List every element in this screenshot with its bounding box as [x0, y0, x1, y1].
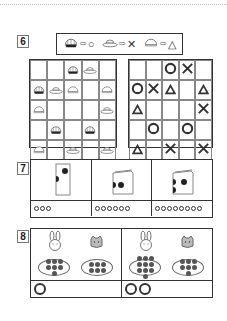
legend-symbol: △ — [168, 39, 176, 50]
apple-icon — [192, 259, 197, 264]
small-circle-icon — [95, 206, 100, 211]
triangle-mark-icon — [165, 81, 176, 99]
apple-icon — [192, 265, 197, 270]
dark-striped-dome-hat-icon — [63, 35, 79, 53]
apple-icon — [180, 259, 185, 264]
answer-grid-cell — [179, 120, 196, 140]
answer-grid-cell — [129, 100, 146, 120]
answer-grid-cell — [179, 60, 196, 80]
apple-icon — [58, 259, 63, 264]
plate-of-apples — [38, 259, 70, 276]
large-circle-icon — [125, 283, 137, 295]
answer-grid-cell — [162, 120, 179, 140]
q8-answer-cell — [31, 281, 122, 297]
small-circle-icon — [191, 206, 196, 211]
apple-icon — [149, 256, 154, 261]
cross-mark-icon — [147, 81, 160, 99]
question-8-number: 8 — [17, 230, 29, 243]
hat-grid-cell — [99, 80, 116, 100]
legend-item-2: ⇨△ — [143, 35, 176, 53]
arrow-icon: ⇨ — [119, 40, 126, 48]
answer-grid-cell — [129, 60, 146, 80]
hat-grid-cell — [47, 100, 64, 120]
answer-grid-cell — [195, 80, 212, 100]
q6-legend-box: ⇨○⇨✕⇨△ — [56, 33, 183, 55]
plate-of-apples — [172, 259, 204, 276]
wide-brim-hat-icon — [66, 141, 80, 159]
small-circle-icon — [161, 206, 166, 211]
circle-mark-icon — [164, 61, 177, 79]
apple-icon — [46, 265, 51, 270]
legend-symbol: ○ — [88, 39, 95, 50]
small-circle-icon — [125, 206, 130, 211]
answer-grid-cell — [146, 120, 163, 140]
apple-icon — [89, 268, 94, 273]
page-top-dotted-rule — [0, 4, 227, 5]
apple-icon — [101, 268, 106, 273]
large-circle-icon — [34, 283, 46, 295]
wide-brim-hat-icon — [102, 35, 118, 53]
small-circle-icon — [40, 206, 45, 211]
apple-icon — [186, 271, 191, 276]
triangle-mark-icon — [132, 141, 143, 159]
answer-grid-cell — [129, 80, 146, 100]
answer-grid-cell — [195, 140, 212, 160]
hat-grid-cell — [64, 60, 81, 80]
circle-mark-icon — [181, 121, 194, 139]
hat-grid-cell — [30, 60, 47, 80]
hat-grid-cell — [64, 80, 81, 100]
plate-of-apples — [129, 259, 161, 276]
legend-symbol: ✕ — [127, 39, 136, 50]
apple-icon — [137, 268, 142, 273]
dark-striped-dome-hat-icon — [32, 81, 46, 99]
hat-grid-cell — [82, 60, 99, 80]
apple-icon — [186, 265, 191, 270]
q7-answer-cell — [152, 201, 212, 216]
hat-grid-cell — [30, 100, 47, 120]
small-circle-icon — [173, 206, 178, 211]
small-circle-icon — [155, 206, 160, 211]
hat-grid-cell — [99, 140, 116, 160]
apple-icon — [95, 262, 100, 267]
q8-picture-panel — [31, 229, 122, 280]
apple-icon — [180, 265, 185, 270]
cross-mark-icon — [197, 101, 210, 119]
hat-grid-cell — [82, 140, 99, 160]
answer-grid-cell — [129, 120, 146, 140]
apple-icon — [149, 268, 154, 273]
cross-mark-icon — [181, 61, 194, 79]
hat-grid-cell — [47, 120, 64, 140]
hat-grid-cell — [30, 120, 47, 140]
dark-striped-dome-hat-icon — [83, 121, 97, 139]
small-circle-icon — [185, 206, 190, 211]
small-circle-icon — [119, 206, 124, 211]
q8-picture-panel — [122, 229, 212, 280]
hat-grid-cell — [30, 140, 47, 160]
plain-dome-hat-icon — [32, 101, 46, 119]
hat-grid-cell — [64, 140, 81, 160]
answer-grid-cell — [146, 60, 163, 80]
hat-grid-cell — [99, 120, 116, 140]
plain-dome-hat-icon — [100, 81, 114, 99]
hat-grid-cell — [64, 120, 81, 140]
q7-answer-cell — [92, 201, 153, 216]
small-circle-icon — [101, 206, 106, 211]
q7-box — [30, 159, 213, 218]
apple-icon — [143, 262, 148, 267]
apple-icon — [137, 256, 142, 261]
q7-picture-panel — [152, 160, 212, 200]
q7-answer-cell — [31, 201, 92, 216]
q6-answer-grid — [128, 59, 213, 148]
wide-brim-hat-icon — [49, 81, 63, 99]
apple-icon — [89, 262, 94, 267]
small-circle-icon — [107, 206, 112, 211]
apple-icon — [143, 274, 148, 279]
hat-grid-cell — [47, 80, 64, 100]
answer-grid-cell — [179, 100, 196, 120]
plain-dome-hat-icon — [32, 141, 46, 159]
question-6-number: 6 — [17, 35, 29, 48]
hat-grid-cell — [30, 80, 47, 100]
circle-mark-icon — [147, 121, 160, 139]
legend-item-0: ⇨○ — [63, 35, 95, 53]
apple-icon — [186, 259, 191, 264]
